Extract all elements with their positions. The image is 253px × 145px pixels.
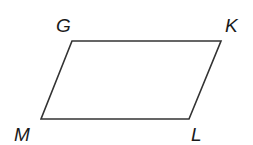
vertex-label-l: L: [191, 124, 202, 145]
vertex-label-k: K: [225, 15, 239, 36]
parallelogram-gklm: [41, 41, 221, 119]
vertex-label-m: M: [14, 124, 30, 145]
vertex-label-g: G: [56, 15, 71, 36]
parallelogram-diagram: G K M L: [0, 0, 253, 145]
